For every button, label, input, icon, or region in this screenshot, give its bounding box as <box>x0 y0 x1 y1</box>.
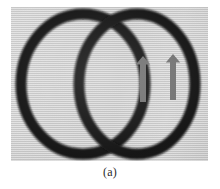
photo-plate <box>11 7 208 161</box>
right-ring-shape <box>79 14 195 154</box>
figure-root: (a) <box>0 0 220 189</box>
arrow-up-icon-right <box>166 54 180 100</box>
figure-caption: (a) <box>0 165 220 180</box>
rings-diagram <box>11 7 208 161</box>
